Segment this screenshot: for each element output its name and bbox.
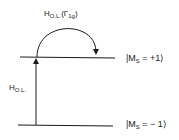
ket-suffix: = − 1⟩ <box>140 119 167 129</box>
lower-level-label: |MS = − 1⟩ <box>126 120 167 130</box>
ket-suffix: = +1⟩ <box>140 53 165 63</box>
hamiltonian-subscript: O.L. <box>50 13 61 19</box>
gamma-subscript: 1g <box>68 13 75 19</box>
hamiltonian-subscript: O.L. <box>15 87 26 93</box>
upper-level-line <box>20 57 115 58</box>
arc-transition-arrow <box>37 29 96 57</box>
upper-level-label: |MS = +1⟩ <box>126 54 164 64</box>
vertical-transition-label: HO.L. <box>9 84 26 93</box>
ket-prefix: |M <box>126 119 136 129</box>
close-paren: ) <box>75 9 78 18</box>
ket-prefix: |M <box>126 53 136 63</box>
arc-transition-label: HO.L.(Γ1g) <box>44 10 78 19</box>
lower-level-line <box>18 125 113 126</box>
